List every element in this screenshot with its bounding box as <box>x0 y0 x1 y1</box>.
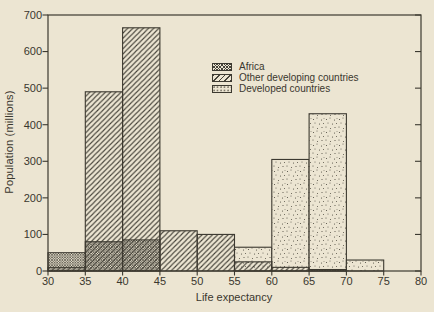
y-tick-label: 200 <box>24 192 42 204</box>
histogram-svg: 0100200300400500600700303540455055606570… <box>0 0 434 312</box>
bar-hatch-45 <box>160 231 197 271</box>
chart-figure: 0100200300400500600700303540455055606570… <box>0 0 434 312</box>
legend-item-other-developing: Other developing countries <box>212 72 359 83</box>
bar-stipple-70 <box>346 260 383 271</box>
x-tick-label: 30 <box>42 275 54 287</box>
bar-hatch-40 <box>123 28 160 271</box>
y-tick-label: 600 <box>24 45 42 57</box>
x-tick-label: 40 <box>116 275 128 287</box>
legend-label-developed: Developed countries <box>239 83 330 94</box>
legend-label-africa: Africa <box>239 61 265 72</box>
legend-item-africa: Africa <box>212 61 359 72</box>
legend-item-developed: Developed countries <box>212 83 359 94</box>
y-tick-label: 700 <box>24 9 42 21</box>
x-tick-label: 50 <box>191 275 203 287</box>
bar-crosshatch-35 <box>85 242 122 271</box>
y-axis-title: Population (millions) <box>3 90 15 193</box>
x-axis-title: Life expectancy <box>196 291 272 303</box>
other-developing-swatch-icon <box>212 74 232 82</box>
africa-swatch-icon <box>212 63 232 71</box>
x-tick-label: 75 <box>378 275 390 287</box>
bar-stipple-65 <box>309 114 346 271</box>
y-tick-label: 500 <box>24 82 42 94</box>
legend-label-other-developing: Other developing countries <box>239 72 359 83</box>
y-tick-label: 100 <box>24 228 42 240</box>
bar-hatch-50 <box>197 234 234 271</box>
bar-stipple-60 <box>272 159 309 271</box>
x-tick-label: 45 <box>154 275 166 287</box>
bar-crosshatch-40 <box>123 240 160 271</box>
x-tick-label: 80 <box>415 275 427 287</box>
developed-swatch-icon <box>212 85 232 93</box>
bar-crosshatch-30 <box>48 253 85 271</box>
bar-hatch-55 <box>235 262 272 271</box>
x-tick-label: 35 <box>79 275 91 287</box>
x-tick-label: 60 <box>266 275 278 287</box>
x-tick-label: 65 <box>303 275 315 287</box>
x-tick-label: 70 <box>340 275 352 287</box>
y-tick-label: 400 <box>24 119 42 131</box>
x-tick-label: 55 <box>228 275 240 287</box>
legend: Africa Other developing countries Develo… <box>212 61 359 94</box>
y-tick-label: 300 <box>24 155 42 167</box>
